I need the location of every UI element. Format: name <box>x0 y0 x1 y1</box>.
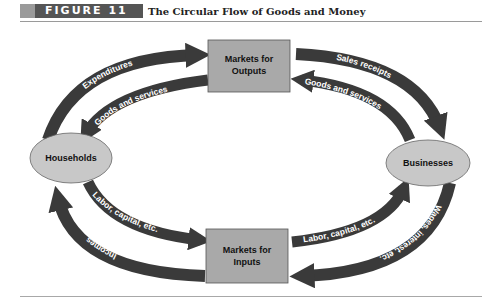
businesses-node: Businesses <box>386 140 470 186</box>
markets-inputs-line1: Markets for <box>223 245 272 255</box>
circular-flow-diagram: Expenditures Sales receipts Wages, inter… <box>0 0 502 301</box>
households-node: Households <box>30 133 112 183</box>
expenditures-label: Expenditures <box>80 58 134 91</box>
markets-for-outputs-box: Markets for Outputs <box>208 40 290 92</box>
markets-for-inputs-box: Markets for Inputs <box>206 229 288 283</box>
markets-outputs-line1: Markets for <box>225 54 274 64</box>
goods-services-left-arrow <box>86 80 208 134</box>
goods-services-left-label: Goods and services <box>92 84 169 128</box>
businesses-label: Businesses <box>403 158 453 168</box>
households-label: Households <box>45 153 97 163</box>
labor-left-arrow <box>88 182 200 240</box>
markets-outputs-line2: Outputs <box>232 66 267 76</box>
markets-inputs-line2: Inputs <box>234 257 261 267</box>
labor-left-label: Labor, capital, etc. <box>90 190 159 234</box>
footer-rule <box>20 296 482 297</box>
